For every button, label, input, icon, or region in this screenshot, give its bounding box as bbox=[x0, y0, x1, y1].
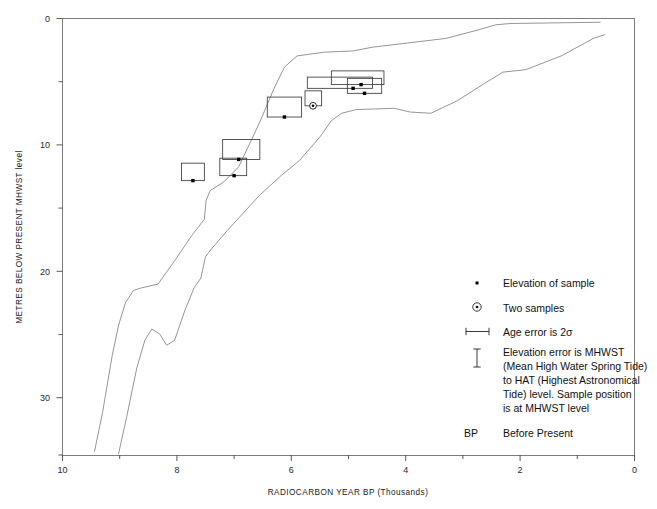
x-tick-label-6: 6 bbox=[289, 465, 294, 475]
y-tick-label-10: 10 bbox=[40, 140, 50, 150]
sample-elevation-point bbox=[237, 158, 240, 161]
x-tick-label-8: 8 bbox=[174, 465, 179, 475]
legend-label-age-error: Age error is 2σ bbox=[503, 326, 573, 338]
legend-circle-dot-center-icon bbox=[476, 306, 479, 309]
x-axis-title: RADIOCARBON YEAR BP (Thousands) bbox=[268, 488, 429, 497]
sample-elevation-point bbox=[283, 115, 286, 118]
legend-label-elevation-error-line5: is at MHWST level bbox=[503, 402, 589, 414]
legend-label-two-samples: Two samples bbox=[503, 302, 564, 314]
sea-level-curve-figure: 0 10 20 30 10 8 6 4 2 0 RAD bbox=[0, 0, 657, 509]
x-tick-label-4: 4 bbox=[403, 465, 408, 475]
legend-label-bp-meaning: Before Present bbox=[503, 427, 573, 439]
y-tick-label-20: 20 bbox=[40, 267, 50, 277]
legend-bp-abbrev: BP bbox=[464, 427, 478, 439]
x-tick-label-0: 0 bbox=[632, 465, 637, 475]
y-axis-title: METRES BELOW PRESENT MHWST level bbox=[15, 150, 24, 323]
sample-elevation-point bbox=[351, 87, 354, 90]
legend-label-elevation-of-sample: Elevation of sample bbox=[503, 277, 595, 289]
sample-elevation-point bbox=[191, 179, 194, 182]
legend-label-elevation-error-line2: (Mean High Water Spring Tide) bbox=[503, 360, 647, 372]
y-tick-label-0: 0 bbox=[45, 14, 50, 24]
legend-dot-icon bbox=[476, 282, 479, 285]
legend-label-elevation-error-line4: Tide) level. Sample position bbox=[503, 388, 632, 400]
chart-svg: 0 10 20 30 10 8 6 4 2 0 RAD bbox=[0, 0, 657, 509]
legend-label-elevation-error-line3: to HAT (Highest Astronomical bbox=[503, 374, 640, 386]
sample-elevation-point bbox=[232, 174, 235, 177]
legend-label-elevation-error-line1: Elevation error is MHWST bbox=[503, 346, 625, 358]
sample-elevation-point bbox=[359, 83, 362, 86]
y-tick-label-30: 30 bbox=[40, 393, 50, 403]
x-tick-label-10: 10 bbox=[57, 465, 67, 475]
two-samples-center-dot bbox=[312, 105, 315, 108]
x-tick-label-2: 2 bbox=[518, 465, 523, 475]
sample-elevation-point bbox=[363, 92, 366, 95]
